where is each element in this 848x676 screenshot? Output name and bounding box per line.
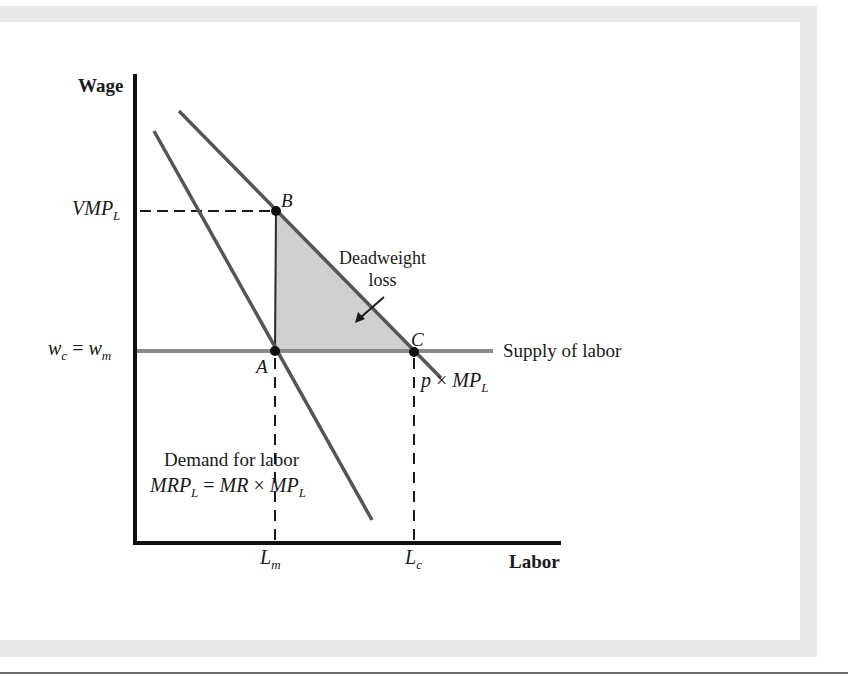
point-a-marker xyxy=(270,346,280,356)
wm-main: w xyxy=(88,337,101,359)
pmp-mp: MP xyxy=(452,369,481,391)
supply-label: Supply of labor xyxy=(503,340,621,362)
mp-main: MP xyxy=(270,474,299,496)
pmp-sub: L xyxy=(481,380,488,395)
deadweight-line2: loss xyxy=(339,269,426,291)
x-tick-lm-sub: m xyxy=(271,557,280,572)
x-axis-label: Labor xyxy=(509,551,560,573)
mr-main: MR xyxy=(220,474,249,496)
deadweight-loss-label: Deadweight loss xyxy=(339,247,426,291)
x-tick-lc-sub: c xyxy=(416,557,422,572)
y-axis-label: Wage xyxy=(78,75,123,97)
demand-label-line2: MRPL = MR × MPL xyxy=(150,474,306,501)
point-a-label: A xyxy=(256,356,268,378)
x-tick-lc: Lc xyxy=(405,546,422,573)
y-tick-vmp: VMPL xyxy=(72,197,120,224)
mrp-main: MRP xyxy=(150,474,191,496)
x-tick-lm: Lm xyxy=(260,546,281,573)
point-b-label: B xyxy=(281,190,293,212)
y-tick-vmp-main: VMP xyxy=(72,197,113,219)
wm-sub: m xyxy=(102,348,111,363)
wage-equals: = xyxy=(67,337,88,359)
ab-vertical-line xyxy=(275,211,276,351)
x-tick-lc-main: L xyxy=(405,546,416,568)
pmp-label: p × MPL xyxy=(421,369,488,396)
point-b-marker xyxy=(271,206,281,216)
x-tick-lm-main: L xyxy=(260,546,271,568)
pmp-times: × xyxy=(431,369,452,391)
wc-main: w xyxy=(48,337,61,359)
demand-label-line1: Demand for labor xyxy=(164,449,299,471)
pmp-p: p xyxy=(421,369,431,391)
point-c-label: C xyxy=(411,329,424,351)
mrp-equals: = xyxy=(198,474,219,496)
mrp-times: × xyxy=(249,474,270,496)
y-tick-wage: wc = wm xyxy=(48,337,111,364)
mp-sub: L xyxy=(299,485,306,500)
y-tick-vmp-sub: L xyxy=(113,208,120,223)
labor-market-chart xyxy=(0,0,848,676)
deadweight-line1: Deadweight xyxy=(339,247,426,269)
